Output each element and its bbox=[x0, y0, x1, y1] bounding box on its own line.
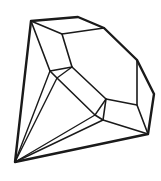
diamond-illustration: Black outline line drawing of a faceted … bbox=[0, 0, 161, 181]
girdle-line bbox=[72, 67, 106, 99]
diamond-icon bbox=[0, 0, 161, 181]
girdle-line-lower bbox=[50, 71, 103, 120]
crown-facet-left bbox=[31, 21, 72, 71]
diamond-outline bbox=[15, 17, 154, 162]
